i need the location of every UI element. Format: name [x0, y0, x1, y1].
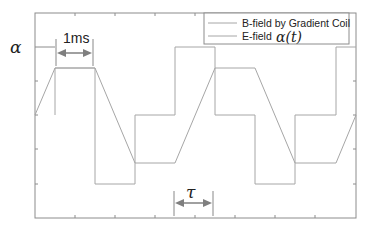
legend: B-field by Gradient Coil E-field α(t)	[204, 13, 350, 45]
legend-e-math: α(t)	[276, 29, 302, 45]
legend-b-label: B-field by Gradient Coil	[242, 17, 350, 29]
waveform-diagram: α 1ms τ B-field by Gradient Coil E-field…	[0, 0, 375, 227]
one-ms-annotation: 1ms	[56, 30, 93, 66]
arrow-right-icon	[203, 199, 212, 207]
one-ms-label: 1ms	[63, 30, 89, 46]
arrow-left-icon	[175, 199, 184, 207]
alpha-tick-label: α	[10, 37, 22, 57]
tau-label: τ	[186, 182, 196, 202]
legend-e-label: E-field	[242, 30, 272, 42]
tau-annotation: τ	[174, 182, 213, 216]
arrow-right-icon	[83, 49, 92, 57]
arrow-left-icon	[57, 49, 66, 57]
